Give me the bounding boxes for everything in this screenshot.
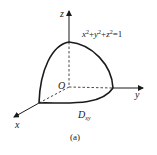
- sphere-equation: x2+y2+z2=1: [81, 29, 122, 39]
- y-axis-label: y: [134, 89, 140, 100]
- x-axis: [14, 103, 39, 117]
- sphere-arc-xy: [39, 88, 113, 103]
- x-axis-label: x: [14, 119, 20, 130]
- sphere-octant-diagram: z y x O x2+y2+z2=1 Dxy (a): [0, 0, 157, 155]
- figure-caption: (a): [70, 132, 80, 142]
- sphere-arc-xz: [39, 42, 69, 103]
- region-label: Dxy: [77, 109, 91, 121]
- z-axis-label: z: [59, 8, 64, 19]
- sphere-arc-yz: [69, 42, 113, 88]
- origin-label: O: [58, 80, 65, 91]
- y-axis-hidden: [69, 87, 113, 88]
